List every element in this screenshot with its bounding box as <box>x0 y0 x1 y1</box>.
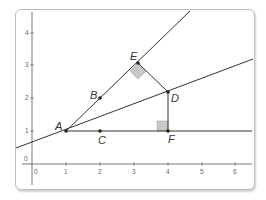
x-tick-0: 0 <box>34 168 38 175</box>
y-tick-4: 4 <box>25 29 29 36</box>
x-tick-3: 3 <box>132 168 136 175</box>
ray-ae <box>66 11 190 131</box>
label-b: B <box>90 89 97 101</box>
right-angle-marker-f <box>157 121 168 131</box>
point-d <box>166 90 170 94</box>
label-c: C <box>98 134 106 146</box>
segment-ed <box>138 63 168 92</box>
right-angle-marker-e <box>130 63 146 79</box>
x-tick-1: 1 <box>64 168 68 175</box>
y-tick-2: 2 <box>25 94 29 101</box>
point-a <box>64 129 68 133</box>
label-e: E <box>130 50 138 62</box>
label-a: A <box>54 120 62 132</box>
x-tick-4: 4 <box>166 168 170 175</box>
x-tick-6: 6 <box>233 168 237 175</box>
point-b <box>98 96 102 100</box>
point-c <box>98 129 102 133</box>
y-tick-0: 0 <box>24 155 28 162</box>
label-f: F <box>168 133 176 145</box>
x-tick-5: 5 <box>200 168 204 175</box>
label-d: D <box>171 92 179 104</box>
y-tick-3: 3 <box>25 61 29 68</box>
x-tick-2: 2 <box>98 168 102 175</box>
y-tick-1: 1 <box>25 127 29 134</box>
coordinate-plane: 0 1 2 3 4 5 6 0 1 2 3 4 A B C D E F <box>0 0 266 200</box>
